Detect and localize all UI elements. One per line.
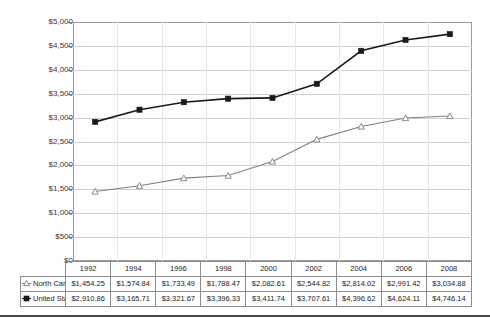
y-axis-tick-label: $500 (7, 233, 73, 241)
y-axis-tick-mark (68, 213, 72, 214)
table-value-cell: $2,544.82 (291, 276, 336, 291)
table-value-cell: $2,991.42 (381, 276, 426, 291)
table-value-cell: $4,396.62 (336, 291, 381, 306)
y-axis-tick-label: $1,000 (7, 209, 73, 217)
table-body: North Carolina$1,454.25$1,574.84$1,733.4… (21, 276, 472, 306)
data-table: 199219941996199820002002200420062008 Nor… (20, 261, 472, 307)
table-year-header: 1992 (66, 262, 111, 277)
table-row: United States$2,910.86$3,165.71$3,321.67… (21, 291, 472, 306)
table-value-cell: $1,454.25 (66, 276, 111, 291)
y-axis-tick-label: $3,000 (7, 114, 73, 122)
y-axis-tick-mark (68, 189, 72, 190)
table-header-row: 199219941996199820002002200420062008 (21, 262, 472, 277)
y-axis-tick-label: $5,000 (7, 18, 73, 26)
y-axis-tick-mark (68, 165, 72, 166)
table-value-cell: $2,910.86 (66, 291, 111, 306)
data-point-marker (403, 37, 408, 42)
table-value-cell: $4,624.11 (381, 291, 426, 306)
chart-figure: $0$500$1,000$1,500$2,000$2,500$3,000$3,5… (0, 0, 490, 328)
y-axis-tick-label: $2,000 (7, 161, 73, 169)
series-line (95, 116, 450, 192)
y-axis-tick-mark (68, 22, 72, 23)
data-point-marker (359, 48, 364, 53)
table-year-header: 2006 (381, 262, 426, 277)
y-axis-tick-mark (68, 94, 72, 95)
table-value-cell: $1,733.49 (156, 276, 201, 291)
y-axis-tick-label: $3,500 (7, 90, 73, 98)
table-year-header: 2002 (291, 262, 336, 277)
data-point-marker (137, 107, 142, 112)
plot-area (73, 22, 472, 261)
y-axis-tick-mark (68, 142, 72, 143)
table-value-cell: $3,396.33 (201, 291, 246, 306)
table-corner-cell (21, 262, 66, 277)
legend-label: United States (33, 294, 66, 303)
table-row: North Carolina$1,454.25$1,574.84$1,733.4… (21, 276, 472, 291)
table-value-cell: $1,788.47 (201, 276, 246, 291)
legend-filled-square-icon (22, 294, 31, 303)
table-series-label-cell: North Carolina (21, 276, 66, 291)
table-value-cell: $2,082.61 (246, 276, 291, 291)
data-point-marker (270, 95, 275, 100)
table-value-cell: $3,707.61 (291, 291, 336, 306)
y-axis-tick-mark (68, 46, 72, 47)
table-value-cell: $3,321.67 (156, 291, 201, 306)
series-layer (73, 22, 472, 261)
series-line (95, 34, 450, 122)
legend-label: North Carolina (33, 279, 66, 288)
bottom-rule (0, 315, 490, 317)
y-axis-tick-mark (68, 237, 72, 238)
table-year-header: 1998 (201, 262, 246, 277)
y-axis-tick-label: $4,500 (7, 42, 73, 50)
table-series-label-cell: United States (21, 291, 66, 306)
table-value-cell: $4,746.14 (426, 291, 471, 306)
table-value-cell: $2,814.02 (336, 276, 381, 291)
y-axis-tick-label: $1,500 (7, 185, 73, 193)
table-year-header: 1996 (156, 262, 201, 277)
table-year-header: 2004 (336, 262, 381, 277)
data-point-marker (93, 119, 98, 124)
y-axis-tick-mark (68, 118, 72, 119)
data-point-marker (226, 96, 231, 101)
data-point-marker (314, 81, 319, 86)
data-point-marker (269, 158, 275, 164)
y-axis-tick-label: $2,500 (7, 138, 73, 146)
data-point-marker (181, 100, 186, 105)
y-axis-tick-label: $4,000 (7, 66, 73, 74)
table-value-cell: $3,034.88 (426, 276, 471, 291)
table-year-header: 2008 (426, 262, 471, 277)
table-value-cell: $1,574.84 (111, 276, 156, 291)
table-value-cell: $3,165.71 (111, 291, 156, 306)
y-axis-tick-mark (68, 70, 72, 71)
table-year-header: 2000 (246, 262, 291, 277)
table-year-header: 1994 (111, 262, 156, 277)
legend-open-triangle-icon (22, 279, 31, 288)
data-point-marker (447, 32, 452, 37)
table-value-cell: $3,411.74 (246, 291, 291, 306)
